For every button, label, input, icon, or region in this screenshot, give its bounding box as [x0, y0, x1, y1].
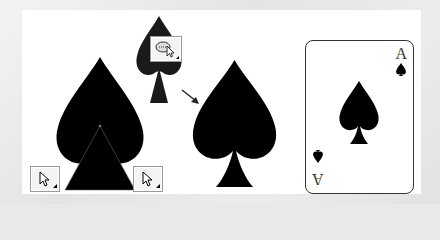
shape-builder-tool-button[interactable]	[150, 36, 182, 62]
spade-with-triangle-icon	[55, 57, 145, 191]
arrow-cursor-icon	[134, 167, 162, 191]
card-rank-bottom: A	[312, 171, 324, 187]
selection-tool-button-right[interactable]	[133, 166, 163, 192]
ace-of-spades-card: A A	[305, 40, 414, 194]
shape-builder-icon	[151, 37, 181, 61]
arrow-cursor-icon	[31, 167, 59, 191]
selection-tool-button-left[interactable]	[30, 166, 60, 192]
center-spade-icon	[339, 81, 379, 145]
card-rank-top: A	[395, 46, 407, 62]
spade-final-icon	[192, 60, 277, 188]
small-spade-bottom-icon	[313, 150, 323, 163]
small-spade-top-icon	[396, 63, 406, 76]
